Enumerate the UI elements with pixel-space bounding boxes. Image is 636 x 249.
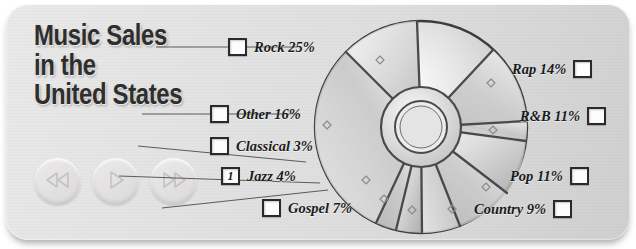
legend-label-country: Country 9% bbox=[474, 201, 546, 218]
checkbox-other[interactable] bbox=[210, 105, 229, 123]
checkbox-country[interactable] bbox=[553, 200, 572, 218]
fast-forward-icon bbox=[161, 172, 187, 192]
legend-label-jazz: Jazz 4% bbox=[247, 168, 296, 185]
checkbox-classical[interactable] bbox=[210, 137, 229, 155]
checkbox-rnb[interactable] bbox=[587, 107, 606, 125]
legend-item-rock[interactable]: Rock 25% bbox=[228, 38, 315, 56]
rewind-button[interactable] bbox=[34, 158, 81, 205]
legend-label-rock: Rock 25% bbox=[254, 39, 315, 56]
legend-item-other[interactable]: Other 16% bbox=[210, 105, 301, 123]
legend-item-country[interactable]: Country 9% bbox=[474, 200, 572, 218]
fast-forward-button[interactable] bbox=[150, 158, 197, 205]
legend-label-rnb: R&B 11% bbox=[520, 108, 580, 125]
checkbox-rock[interactable] bbox=[228, 38, 247, 56]
legend-item-rnb[interactable]: R&B 11% bbox=[520, 107, 606, 125]
checkbox-jazz[interactable]: 1 bbox=[221, 167, 240, 185]
rewind-icon bbox=[45, 172, 71, 192]
checkbox-pop[interactable] bbox=[570, 167, 589, 185]
legend-item-classical[interactable]: Classical 3% bbox=[210, 137, 313, 155]
legend-item-rap[interactable]: Rap 14% bbox=[512, 60, 592, 78]
play-icon bbox=[106, 170, 126, 194]
poster-card: Music Sales in the United States bbox=[6, 4, 630, 240]
poster-canvas: Music Sales in the United States bbox=[0, 0, 636, 249]
checkbox-rap[interactable] bbox=[573, 60, 592, 78]
legend-label-gospel: Gospel 7% bbox=[288, 200, 352, 217]
legend-item-pop[interactable]: Pop 11% bbox=[510, 167, 589, 185]
legend-label-rap: Rap 14% bbox=[512, 61, 566, 78]
page-title: Music Sales in the United States bbox=[34, 20, 186, 109]
transport-controls bbox=[34, 158, 197, 205]
legend-item-jazz[interactable]: 1 Jazz 4% bbox=[221, 167, 296, 185]
legend-label-other: Other 16% bbox=[236, 106, 301, 123]
legend-item-gospel[interactable]: Gospel 7% bbox=[262, 199, 352, 217]
play-button[interactable] bbox=[92, 158, 139, 205]
legend-label-pop: Pop 11% bbox=[510, 168, 563, 185]
legend-label-classical: Classical 3% bbox=[236, 138, 313, 155]
checkbox-gospel[interactable] bbox=[262, 199, 281, 217]
